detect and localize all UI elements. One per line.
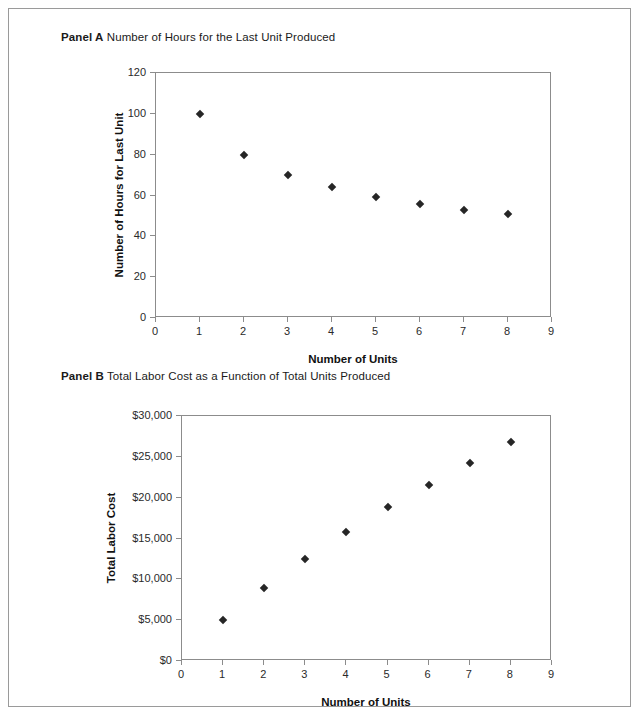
panel-b-x-tick-label: 8 <box>507 668 513 680</box>
panel-a-x-tick-mark <box>199 317 200 322</box>
panel-b-x-tick-label: 5 <box>383 668 389 680</box>
panel-b-x-tick-mark <box>387 660 388 665</box>
panel-b-y-tick-label: $10,000 <box>9 572 172 584</box>
panel-b-title: Panel B Total Labor Cost as a Function o… <box>61 370 390 382</box>
panel-b-chart: $0$5,000$10,000$15,000$20,000$25,000$30,… <box>9 397 632 697</box>
panel-b-x-tick-mark <box>428 660 429 665</box>
panel-a-x-tick-label: 9 <box>548 325 554 337</box>
panel-b-y-axis-title: Total Labor Cost <box>105 415 117 660</box>
panel-b-x-tick-mark <box>181 660 182 665</box>
panel-b-y-tick-label: $5,000 <box>9 613 172 625</box>
panel-a-x-tick-label: 6 <box>416 325 422 337</box>
panel-a-y-tick-mark <box>150 113 155 114</box>
panel-a-x-tick-label: 3 <box>284 325 290 337</box>
panel-b-x-tick-label: 6 <box>425 668 431 680</box>
panel-b-x-tick-label: 1 <box>219 668 225 680</box>
data-point <box>301 555 309 563</box>
panel-b-y-tick-mark <box>176 415 181 416</box>
panel-b-x-tick-mark <box>510 660 511 665</box>
data-point <box>328 183 336 191</box>
data-point <box>416 199 424 207</box>
panel-a-plot-area <box>155 72 551 317</box>
panel-b-title-text: Total Labor Cost as a Function of Total … <box>107 370 390 382</box>
data-point <box>460 206 468 214</box>
panel-a-x-tick-mark <box>463 317 464 322</box>
panel-a-y-tick-mark <box>150 235 155 236</box>
panel-b-x-tick-mark <box>345 660 346 665</box>
panel-a-y-tick-label: 80 <box>9 148 146 160</box>
panel-a-title: Panel A Number of Hours for the Last Uni… <box>61 31 335 43</box>
data-point <box>383 503 391 511</box>
data-point <box>466 459 474 467</box>
panel-b-y-tick-label: $15,000 <box>9 532 172 544</box>
panel-b-x-tick-label: 3 <box>301 668 307 680</box>
panel-b-x-tick-mark <box>222 660 223 665</box>
panel-a-x-tick-mark <box>155 317 156 322</box>
data-point <box>284 171 292 179</box>
panel-a-title-text: Number of Hours for the Last Unit Produc… <box>107 31 336 43</box>
panel-a-x-tick-mark <box>375 317 376 322</box>
panel-a-x-tick-label: 2 <box>240 325 246 337</box>
panel-a-x-tick-label: 8 <box>504 325 510 337</box>
panel-b-x-tick-mark <box>304 660 305 665</box>
panel-b-y-tick-label: $20,000 <box>9 491 172 503</box>
data-point <box>219 616 227 624</box>
panel-a-x-tick-mark <box>287 317 288 322</box>
panel-a-y-tick-mark <box>150 154 155 155</box>
panel-a-x-tick-mark <box>551 317 552 322</box>
panel-b-y-tick-mark <box>176 456 181 457</box>
data-point <box>507 438 515 446</box>
panel-b-y-tick-mark <box>176 619 181 620</box>
panel-b-label: Panel B <box>61 370 104 382</box>
panel-b-x-tick-label: 9 <box>548 668 554 680</box>
data-point <box>504 210 512 218</box>
data-point <box>240 150 248 158</box>
panel-b-x-tick-mark <box>551 660 552 665</box>
panel-a-x-tick-mark <box>419 317 420 322</box>
panel-b-y-tick-mark <box>176 538 181 539</box>
panel-b-x-tick-label: 0 <box>178 668 184 680</box>
panel-a-x-tick-mark <box>331 317 332 322</box>
panel-b-x-tick-label: 4 <box>342 668 348 680</box>
panel-b-y-tick-mark <box>176 578 181 579</box>
panel-b-y-tick-label: $0 <box>9 654 172 666</box>
panel-b-x-tick-label: 7 <box>466 668 472 680</box>
panel-b-plot-area <box>181 415 551 660</box>
panel-a-y-tick-label: 20 <box>9 270 146 282</box>
panel-a-x-tick-label: 4 <box>328 325 334 337</box>
panel-a-y-tick-label: 100 <box>9 107 146 119</box>
panel-a-y-tick-label: 0 <box>9 311 146 323</box>
data-point <box>372 192 380 200</box>
panel-a-y-tick-label: 60 <box>9 189 146 201</box>
panel-a-x-axis-title: Number of Units <box>308 353 397 365</box>
panel-a-label: Panel A <box>61 31 103 43</box>
panel-b-x-tick-mark <box>469 660 470 665</box>
data-point <box>342 528 350 536</box>
panel-a-x-tick-mark <box>243 317 244 322</box>
panel-b-y-tick-mark <box>176 497 181 498</box>
figure-border: Panel A Number of Hours for the Last Uni… <box>8 8 631 707</box>
panel-a-x-tick-label: 0 <box>152 325 158 337</box>
panel-b-y-tick-label: $25,000 <box>9 450 172 462</box>
panel-a-y-tick-mark <box>150 195 155 196</box>
panel-a-x-tick-label: 7 <box>460 325 466 337</box>
panel-a-y-tick-mark <box>150 276 155 277</box>
panel-a-chart: 0204060801001200123456789Number of Units… <box>9 54 632 354</box>
panel-a-x-tick-label: 5 <box>372 325 378 337</box>
panel-a-y-tick-mark <box>150 72 155 73</box>
panel-a-y-tick-label: 120 <box>9 66 146 78</box>
panel-a-x-tick-label: 1 <box>196 325 202 337</box>
data-point <box>424 480 432 488</box>
panel-a-y-axis-title: Number of Hours for Last Unit <box>113 72 125 317</box>
panel-b-y-tick-label: $30,000 <box>9 409 172 421</box>
panel-b-x-tick-mark <box>263 660 264 665</box>
data-point <box>196 110 204 118</box>
panel-b-x-tick-label: 2 <box>260 668 266 680</box>
panel-a-x-tick-mark <box>507 317 508 322</box>
data-point <box>260 583 268 591</box>
panel-b-x-axis-title: Number of Units <box>321 696 410 708</box>
panel-a-y-tick-label: 40 <box>9 229 146 241</box>
